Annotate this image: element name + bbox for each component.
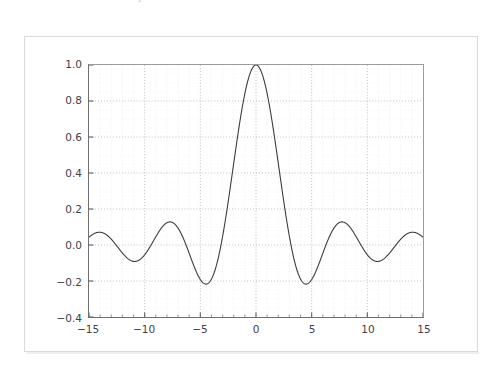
- cropped-header-text: — . — — — — —: [118, 0, 348, 5]
- y-tick-label: −0.2: [57, 276, 83, 288]
- x-tick-label: −10: [133, 323, 155, 335]
- x-tick-label: −15: [77, 323, 99, 335]
- y-axis-tick-labels: −0.4−0.20.00.20.40.60.81.0: [24, 64, 82, 318]
- screenshot-page: — . — — — — — −0.4−0.20.00.20.40.60.81.0…: [0, 0, 497, 369]
- sinc-curve: [89, 65, 423, 317]
- x-tick-label: 10: [361, 323, 374, 335]
- plot-axes: [88, 64, 424, 318]
- x-tick-label: 15: [417, 323, 430, 335]
- chart-figure: −0.4−0.20.00.20.40.60.81.0 −15−10−505101…: [24, 36, 478, 352]
- y-tick-label: 0.8: [65, 94, 82, 106]
- y-tick-label: 0.0: [65, 239, 82, 251]
- x-tick-label: 0: [253, 323, 260, 335]
- x-tick-label: 5: [309, 323, 316, 335]
- x-tick-label: −5: [192, 323, 207, 335]
- x-axis-tick-labels: −15−10−5051015: [88, 323, 424, 341]
- y-tick-label: 1.0: [65, 58, 82, 70]
- y-tick-label: 0.6: [65, 131, 82, 143]
- y-tick-label: 0.4: [65, 167, 82, 179]
- y-tick-label: 0.2: [65, 203, 82, 215]
